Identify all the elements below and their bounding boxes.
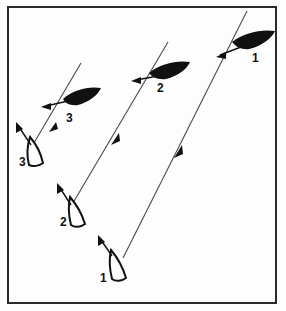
diagram-canvas: 1 2 3 3 2: [0, 0, 286, 311]
outline-boat-1-label: 1: [100, 271, 107, 285]
outline-boat-3-label: 3: [19, 155, 26, 169]
sailing-course-diagram: 1 2 3 3 2: [0, 0, 286, 311]
dark-boat-2-label: 2: [157, 81, 164, 95]
dark-boat-3-label: 3: [66, 111, 73, 125]
outline-boat-2-label: 2: [60, 215, 67, 229]
dark-boat-1-label: 1: [252, 51, 259, 65]
